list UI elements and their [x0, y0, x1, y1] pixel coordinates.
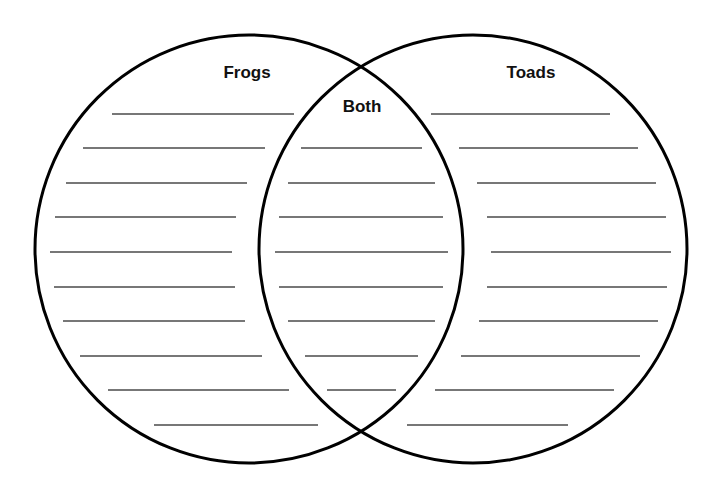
frogs-label: Frogs	[223, 63, 270, 82]
venn-diagram: Frogs Both Toads	[0, 0, 718, 493]
both-label: Both	[343, 97, 382, 116]
both-writing-lines	[275, 148, 448, 390]
toads-label: Toads	[507, 63, 556, 82]
toads-writing-lines	[407, 114, 671, 425]
toads-circle	[259, 35, 687, 463]
frogs-circle	[35, 35, 463, 463]
